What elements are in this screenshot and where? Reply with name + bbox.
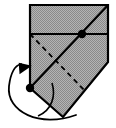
origami-figure-canvas [0, 0, 116, 128]
upper-right-vertex-dot [78, 30, 86, 38]
folded-paper-shape [30, 5, 108, 117]
origami-diagram [0, 0, 116, 128]
lower-left-vertex-dot [26, 84, 34, 92]
